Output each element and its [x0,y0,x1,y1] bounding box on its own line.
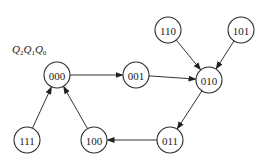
state-label: 100 [86,135,103,147]
state-label: 010 [201,75,218,87]
state-label: 000 [49,70,66,82]
state-node-011: 011 [157,127,183,153]
state-node-100: 100 [81,127,107,153]
state-node-001: 001 [123,62,149,88]
edge-001-to-010 [149,76,196,79]
state-node-010: 010 [196,67,222,93]
nodes-group: 000001010110101111100011 [14,17,254,153]
state-label: 011 [162,135,178,147]
state-label: 110 [160,25,177,37]
state-label: 101 [233,25,250,37]
state-node-101: 101 [228,17,254,43]
state-node-110: 110 [155,17,181,43]
edge-111-to-000 [32,87,51,128]
state-node-111: 111 [14,127,40,153]
edge-101-to-010 [216,41,234,69]
state-diagram: Q2Q1Q0 000001010110101111100011 [0,0,264,168]
edge-100-to-000 [64,87,88,129]
edge-110-to-010 [176,40,200,70]
state-label: 001 [128,70,145,82]
state-node-000: 000 [44,62,70,88]
edge-010-to-011 [177,91,202,129]
state-variables-label: Q2Q1Q0 [12,43,47,57]
state-label: 111 [19,135,35,147]
